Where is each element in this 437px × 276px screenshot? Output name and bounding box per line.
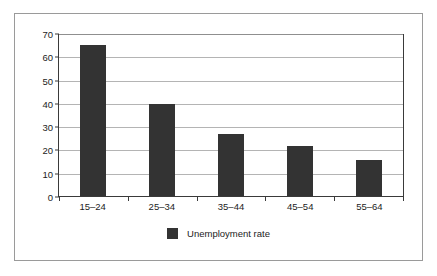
- bar-35-44[interactable]: [218, 134, 244, 196]
- bar-group: [59, 34, 403, 196]
- plot-area: 70 60 50 40 30 20 10 0: [58, 34, 404, 197]
- legend-label-unemployment-rate: Unemployment rate: [187, 228, 270, 239]
- ytick-label-0: 0: [48, 192, 53, 203]
- ytick-label-50: 50: [42, 75, 53, 86]
- legend-swatch-unemployment-rate: [167, 228, 178, 239]
- bar-45-54[interactable]: [287, 146, 313, 196]
- xlabel-25-34: 25–34: [127, 201, 196, 212]
- chart-figure: 70 60 50 40 30 20 10 0: [14, 13, 423, 261]
- xlabel-35-44: 35–44: [196, 201, 265, 212]
- chart-legend: Unemployment rate: [15, 228, 422, 239]
- ytick-label-40: 40: [42, 98, 53, 109]
- bar-55-64[interactable]: [356, 160, 382, 196]
- bar-slot-25-34: [128, 34, 197, 196]
- bar-slot-15-24: [59, 34, 128, 196]
- bar-slot-45-54: [265, 34, 334, 196]
- ytick-label-10: 10: [42, 168, 53, 179]
- bar-slot-35-44: [197, 34, 266, 196]
- bar-15-24[interactable]: [80, 45, 106, 196]
- ytick-label-70: 70: [42, 29, 53, 40]
- xlabel-55-64: 55–64: [335, 201, 404, 212]
- ytick-label-60: 60: [42, 52, 53, 63]
- ytick-label-20: 20: [42, 145, 53, 156]
- xlabel-45-54: 45–54: [266, 201, 335, 212]
- bar-slot-55-64: [334, 34, 403, 196]
- x-axis-labels: 15–24 25–34 35–44 45–54 55–64: [58, 201, 404, 212]
- ytick-label-30: 30: [42, 122, 53, 133]
- gridline-0: 0: [59, 197, 403, 198]
- bar-25-34[interactable]: [149, 104, 175, 196]
- xlabel-15-24: 15–24: [58, 201, 127, 212]
